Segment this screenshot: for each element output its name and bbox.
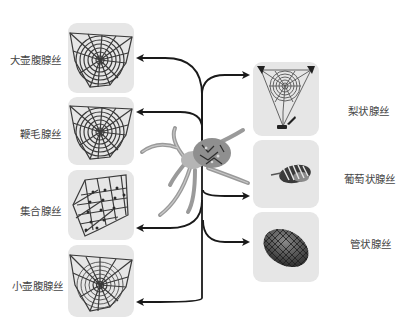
connector-arrows bbox=[0, 0, 402, 325]
arrow-flagelliform bbox=[138, 112, 202, 140]
arrow-major-ampullate bbox=[138, 58, 202, 140]
arrow-tubuliform bbox=[203, 220, 248, 242]
arrow-aciniform bbox=[203, 190, 248, 196]
spider-icon bbox=[142, 128, 248, 215]
